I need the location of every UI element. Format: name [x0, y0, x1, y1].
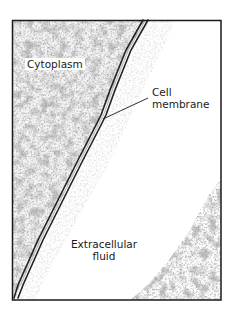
- micrograph-figure: Cytoplasm Cell membrane Extracellular fl…: [0, 0, 233, 314]
- cell-membrane-label-line2: membrane: [152, 98, 209, 110]
- cytoplasm-label: Cytoplasm: [25, 58, 85, 70]
- cell-membrane-label: Cell membrane: [150, 86, 211, 110]
- extracellular-label-line2: fluid: [66, 250, 142, 262]
- extracellular-label-line1: Extracellular: [66, 238, 142, 250]
- micrograph-image: [0, 0, 233, 314]
- cell-membrane-label-line1: Cell: [152, 86, 209, 98]
- extracellular-fluid-label: Extracellular fluid: [64, 238, 144, 262]
